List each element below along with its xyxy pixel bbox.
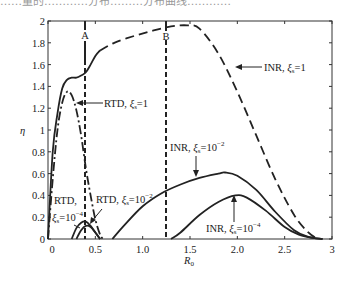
- y-tick-label: 0.2: [32, 212, 45, 223]
- x-tick-label: 2.0: [231, 244, 244, 255]
- svg-text:RTD, ξs=1: RTD, ξs=1: [104, 98, 148, 111]
- svg-text:INR, ξs=1: INR, ξs=1: [264, 62, 306, 75]
- x-tick-label: 1.0: [136, 244, 149, 255]
- svg-text:INR, ξs=10−2: INR, ξs=10−2: [170, 140, 225, 155]
- annotation-inr-1: INR, ξs=1: [235, 62, 306, 75]
- svg-text:ξs=10−4: ξs=10−4: [52, 210, 84, 225]
- y-axis-label: η: [20, 125, 25, 136]
- x-tick-label: 3: [329, 244, 334, 255]
- annotation-rtd-1: RTD, ξs=1: [76, 98, 148, 111]
- y-tick-label: 1.2: [32, 103, 45, 114]
- series-inr-1-solid: [48, 50, 100, 239]
- annotation-rtd-1e-4: RTD, ξs=10−4: [52, 195, 84, 228]
- line-chart: 00.20.40.60.811.21.41.61.82 00.51.01.52.…: [0, 0, 348, 281]
- y-tick-label: 1.4: [32, 81, 46, 92]
- y-tick-label: 0.6: [32, 169, 45, 180]
- x-axis-label: R0: [183, 255, 194, 268]
- svg-text:RTD, ξs=10−2: RTD, ξs=10−2: [96, 192, 153, 207]
- y-tick-label: 1.8: [32, 38, 45, 49]
- marker-b-label: B: [162, 31, 169, 42]
- y-tick-label: 0: [40, 234, 45, 245]
- annotation-rtd-1e-2: RTD, ξs=10−2: [90, 192, 153, 224]
- x-tick-label: 0.5: [89, 244, 102, 255]
- svg-text:RTD,: RTD,: [54, 195, 77, 206]
- y-tick-label: 2: [40, 16, 45, 27]
- svg-text:INR, ξs=10−4: INR, ξs=10−4: [206, 221, 261, 236]
- plot-frame: [48, 21, 332, 239]
- marker-b: B: [162, 21, 169, 239]
- annotation-inr-1e-2: INR, ξs=10−2: [170, 140, 225, 177]
- x-tick-label: 1.5: [183, 244, 196, 255]
- marker-a-label: A: [81, 30, 89, 41]
- y-tick-label: 0.8: [32, 147, 45, 158]
- y-tick-label: 1.6: [32, 60, 45, 71]
- y-tick-label: 1: [40, 125, 45, 136]
- x-tick-label: 2.5: [278, 244, 291, 255]
- marker-a: A: [80, 21, 90, 239]
- x-tick-label: 0: [49, 244, 54, 255]
- series-group: [48, 25, 323, 239]
- y-tick-label: 0.4: [32, 190, 46, 201]
